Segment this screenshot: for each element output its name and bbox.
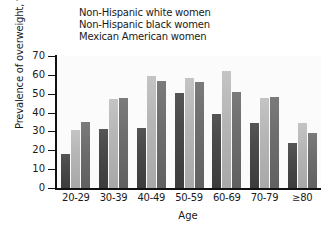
bar	[157, 81, 166, 188]
legend-item-mexican-american-women: Mexican American women	[57, 31, 287, 42]
bar-group	[132, 56, 170, 188]
y-axis-tick-label: 70	[20, 51, 45, 61]
y-axis-tick-label: 60	[20, 70, 45, 80]
chart-legend: Non-Hispanic white women Non-Hispanic bl…	[57, 7, 287, 43]
bar	[298, 123, 307, 188]
bar	[71, 130, 80, 188]
y-axis-tick-label: 30	[20, 126, 45, 136]
y-axis-tick	[48, 131, 55, 132]
y-axis-tick	[48, 169, 55, 170]
bar-group	[246, 56, 284, 188]
bar	[260, 98, 269, 189]
bar	[137, 128, 146, 188]
bar-group	[57, 56, 95, 188]
x-axis-line	[55, 188, 321, 190]
bar	[250, 123, 259, 188]
bar	[212, 114, 221, 188]
x-axis-tick-label: 60-69	[208, 192, 246, 204]
y-axis-tick-label: 50	[20, 89, 45, 99]
y-axis-tick-label: 40	[20, 108, 45, 118]
legend-label-series-2: Mexican American women	[79, 31, 206, 42]
y-axis-tick	[48, 56, 55, 57]
legend-label-series-0: Non-Hispanic white women	[79, 7, 211, 18]
y-axis-tick	[48, 188, 55, 189]
bar-groups	[57, 56, 321, 188]
bar	[119, 98, 128, 189]
y-axis-tick	[48, 94, 55, 95]
bar	[232, 92, 241, 188]
legend-item-non-hispanic-black-women: Non-Hispanic black women	[57, 19, 287, 30]
y-axis-tick-label: 20	[20, 145, 45, 155]
y-axis-tick	[48, 113, 55, 114]
bar	[147, 76, 156, 188]
legend-swatch-icon-series-0	[57, 9, 74, 16]
x-axis-tick-label: 30-39	[95, 192, 133, 204]
legend-label-series-1: Non-Hispanic black women	[79, 19, 210, 30]
bar	[99, 129, 108, 188]
x-axis-title: Age	[55, 210, 321, 221]
x-axis-tick-labels: 20-2930-3940-4950-5960-6970-79≥80	[57, 192, 321, 204]
bar	[109, 99, 118, 188]
y-axis-tick	[48, 75, 55, 76]
bar	[195, 82, 204, 188]
x-axis-tick-label: 70-79	[246, 192, 284, 204]
legend-swatch-icon-series-2	[57, 33, 74, 40]
chart-figure: Non-Hispanic white women Non-Hispanic bl…	[0, 0, 333, 232]
bar-group	[95, 56, 133, 188]
x-axis-tick-label: 50-59	[170, 192, 208, 204]
x-axis-tick-label: ≥80	[283, 192, 321, 204]
bar	[81, 122, 90, 188]
x-axis-tick-label: 40-49	[132, 192, 170, 204]
y-axis-tick-label: 0	[20, 183, 45, 193]
bar-group	[170, 56, 208, 188]
legend-swatch-icon-series-1	[57, 21, 74, 28]
bar	[270, 97, 279, 188]
y-axis-tick-label: 10	[20, 164, 45, 174]
bar	[61, 154, 70, 188]
bar	[222, 71, 231, 188]
bar	[308, 133, 317, 188]
bar-group	[208, 56, 246, 188]
legend-item-non-hispanic-white-women: Non-Hispanic white women	[57, 7, 287, 18]
bar	[175, 93, 184, 188]
bar-group	[283, 56, 321, 188]
bar	[185, 78, 194, 188]
bar	[288, 143, 297, 188]
y-axis-tick	[48, 150, 55, 151]
x-axis-tick-label: 20-29	[57, 192, 95, 204]
